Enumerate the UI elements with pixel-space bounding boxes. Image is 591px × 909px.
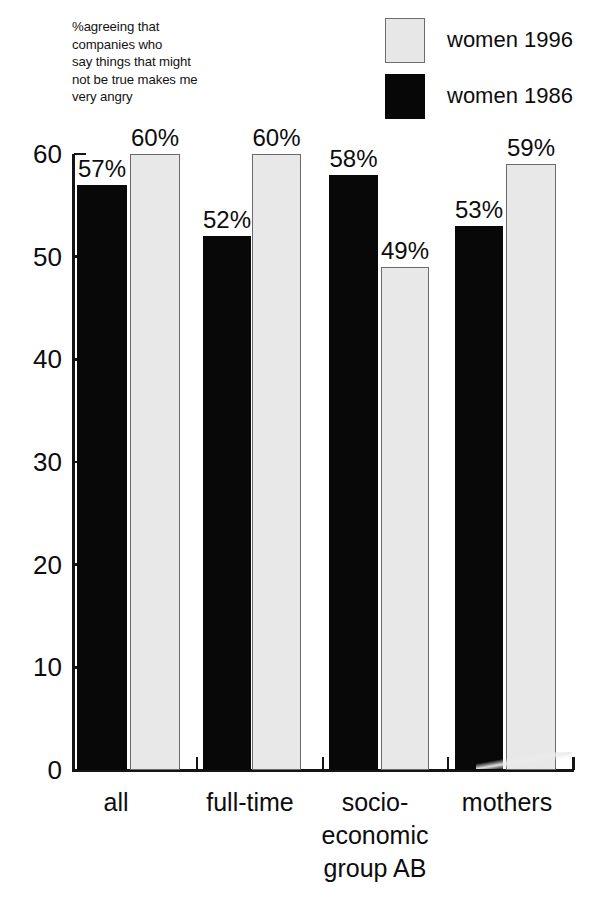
x-tick-3	[447, 757, 449, 770]
y-axis-label-50: 50	[4, 241, 62, 272]
y-axis-label-40: 40	[4, 344, 62, 375]
bar-value-women-1996-full-time: 60%	[238, 124, 315, 152]
bar-women-1996-socio-economic-group-ab	[381, 267, 429, 770]
bar-value-women-1996-mothers: 59%	[492, 134, 570, 162]
category-label-full-time: full-time	[180, 786, 320, 819]
bar-value-women-1996-all: 60%	[116, 124, 194, 152]
plot-area: 0102030405060 57%60%52%60%58%49%53%59% a…	[0, 0, 591, 909]
y-axis-label-10: 10	[4, 652, 62, 683]
y-axis-label-60: 60	[4, 139, 62, 170]
bar-women-1996-all	[130, 154, 180, 770]
bar-value-women-1986-mothers: 53%	[441, 196, 517, 224]
x-tick-2	[322, 757, 324, 770]
y-axis-label-30: 30	[4, 447, 62, 478]
category-label-socio-economic-group-ab: socio- economic group AB	[305, 786, 445, 885]
category-label-mothers: mothers	[432, 786, 582, 819]
bar-women-1996-mothers	[506, 164, 556, 770]
bar-women-1986-full-time	[203, 236, 251, 770]
bar-women-1986-all	[77, 185, 127, 770]
bar-women-1986-mothers	[455, 226, 503, 770]
bar-value-women-1986-socio-economic-group-ab: 58%	[315, 145, 392, 173]
bar-value-women-1986-all: 57%	[63, 155, 141, 183]
x-tick-0	[72, 757, 74, 770]
x-axis-right-cap	[572, 757, 575, 770]
bar-women-1996-full-time	[252, 154, 301, 770]
y-axis-label-20: 20	[4, 549, 62, 580]
y-axis-label-0: 0	[4, 755, 62, 786]
x-tick-1	[196, 757, 198, 770]
bar-value-women-1986-full-time: 52%	[189, 206, 265, 234]
bar-value-women-1996-socio-economic-group-ab: 49%	[367, 237, 443, 265]
category-label-all: all	[62, 786, 170, 819]
bar-chart-figure: %agreeing that companies who say things …	[0, 0, 591, 909]
